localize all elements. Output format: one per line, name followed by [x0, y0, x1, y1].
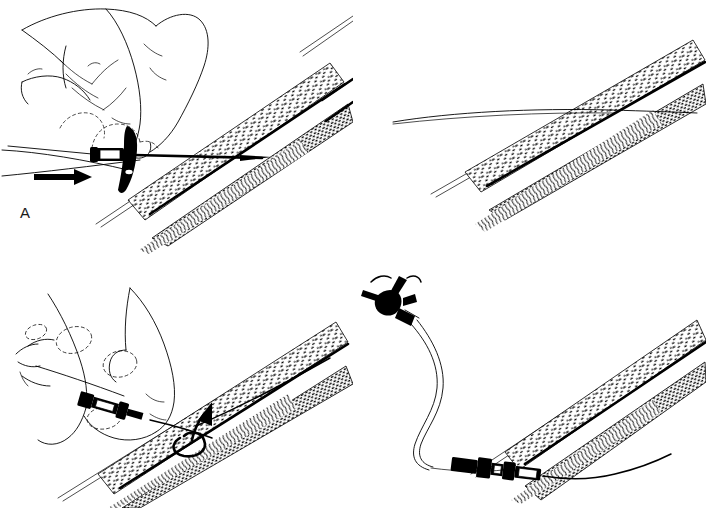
- panel-label-a: A: [20, 205, 31, 220]
- three-way-stopcock-d: [361, 276, 421, 326]
- panel-a: A: [0, 0, 353, 254]
- figure-root: A: [0, 0, 706, 508]
- panel-d: D: [353, 254, 706, 508]
- hand-a: [21, 9, 208, 158]
- extension-tubing-d: [411, 320, 443, 470]
- panel-c: C: [0, 254, 353, 508]
- panel-b: B: [353, 0, 706, 254]
- blood-vessel-b: [431, 40, 706, 232]
